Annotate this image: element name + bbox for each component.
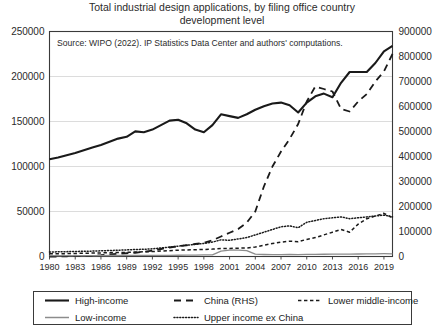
y-axis-right-tick-label: 300000 [399, 176, 433, 187]
series-line-high-income [50, 46, 393, 159]
y-axis-left-tick-label: 100000 [11, 161, 45, 172]
x-axis-tick-label: 2007 [271, 262, 291, 272]
x-axis-tick-label: 1986 [91, 262, 111, 272]
chart-figure: Total industrial design applications, by… [0, 0, 444, 333]
y-axis-right-tick-label: 600000 [399, 101, 433, 112]
x-axis-tick-label: 2019 [374, 262, 394, 272]
series-line-lower-middle-income [50, 213, 393, 254]
y-axis-left-tick-label: 250000 [11, 26, 45, 37]
legend-item-upper-income-ex-china[interactable]: Upper income ex China [163, 312, 288, 323]
chart-legend: High-income China (RHS) Lower middle-inc… [33, 291, 412, 325]
x-axis-tick-label: 2010 [297, 262, 317, 272]
chart-plot: 0500001000001500002000002500000100000200… [0, 0, 444, 290]
x-axis-tick-label: 2016 [348, 262, 368, 272]
legend-row-2: Low-income Upper income ex China [34, 309, 411, 326]
y-axis-right-tick-label: 900000 [399, 26, 433, 37]
x-axis-tick-label: 2004 [245, 262, 265, 272]
legend-item-china[interactable]: China (RHS) [163, 295, 287, 306]
series-line-upper-income-ex-china [50, 215, 393, 252]
legend-label-low-income: Low-income [75, 312, 126, 323]
legend-item-low-income[interactable]: Low-income [34, 312, 163, 323]
legend-swatch-low-income [44, 312, 70, 323]
x-axis-tick-label: 1989 [117, 262, 137, 272]
x-axis-tick-label: 1992 [142, 262, 162, 272]
y-axis-right-tick-label: 700000 [399, 76, 433, 87]
y-axis-right-tick-label: 800000 [399, 51, 433, 62]
y-axis-right-tick-label: 200000 [399, 201, 433, 212]
y-axis-left-tick-label: 200000 [11, 71, 45, 82]
source-annotation: Source: WIPO (2022). IP Statistics Data … [57, 38, 343, 48]
y-axis-right-tick-label: 400000 [399, 151, 433, 162]
legend-swatch-high-income [44, 295, 70, 306]
legend-label-china: China (RHS) [204, 295, 258, 306]
legend-label-upper-income-ex-china: Upper income ex China [204, 312, 303, 323]
x-axis-tick-label: 1980 [39, 262, 59, 272]
legend-item-high-income[interactable]: High-income [34, 295, 163, 306]
legend-label-high-income: High-income [75, 295, 128, 306]
legend-label-lower-middle-income: Lower middle-income [328, 295, 418, 306]
x-axis-tick-label: 1998 [194, 262, 214, 272]
y-axis-right-tick-label: 0 [399, 251, 405, 262]
x-axis-tick-label: 1995 [168, 262, 188, 272]
legend-item-lower-middle-income[interactable]: Lower middle-income [287, 295, 411, 306]
y-axis-right-tick-label: 500000 [399, 126, 433, 137]
y-axis-right-tick-label: 100000 [399, 226, 433, 237]
legend-swatch-lower-middle-income [297, 295, 323, 306]
y-axis-left-tick-label: 150000 [11, 116, 45, 127]
y-axis-left-tick-label: 0 [39, 251, 45, 262]
y-axis-left-tick-label: 50000 [17, 206, 45, 217]
x-axis-tick-label: 2001 [220, 262, 240, 272]
x-axis-tick-label: 1983 [65, 262, 85, 272]
legend-swatch-upper-income-ex-china [173, 312, 199, 323]
legend-swatch-china [173, 295, 199, 306]
x-axis-tick-label: 2013 [322, 262, 342, 272]
legend-row-1: High-income China (RHS) Lower middle-inc… [34, 292, 411, 309]
